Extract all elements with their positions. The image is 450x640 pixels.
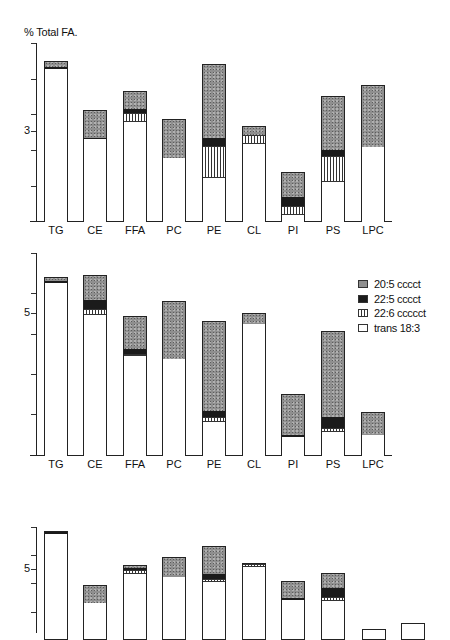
bar-tg xyxy=(44,277,68,455)
legend-item-20-5: 20:5 cccct xyxy=(358,277,426,292)
segment-trans xyxy=(363,630,385,634)
bar-ffa xyxy=(123,565,147,640)
legend-label: 20:5 cccct xyxy=(374,278,421,290)
segment-trans xyxy=(282,215,304,222)
bar-ps xyxy=(321,331,345,455)
segment-s205 xyxy=(84,586,106,603)
segment-trans xyxy=(45,534,67,634)
striped-swatch-icon xyxy=(358,309,368,317)
x-tick-label: CL xyxy=(234,458,274,470)
y-axis-title: % Total FA. xyxy=(24,26,77,38)
bar-ffa xyxy=(123,316,147,455)
bar-pc xyxy=(162,557,186,640)
y-axis-line xyxy=(36,527,37,633)
bar-pi xyxy=(281,394,305,455)
y-tick xyxy=(31,334,36,335)
x-tick-label: TG xyxy=(36,224,76,236)
segment-trans xyxy=(243,324,265,456)
bar-unlabeled xyxy=(401,623,425,640)
bar-ce xyxy=(83,110,107,221)
x-tick-label: TG xyxy=(36,458,76,470)
y-tick xyxy=(31,253,36,254)
segment-s205 xyxy=(203,65,225,138)
bar-lpc xyxy=(362,629,386,640)
y-tick xyxy=(31,555,36,556)
y-tick xyxy=(31,43,36,44)
x-tick-label: FFA xyxy=(115,224,155,236)
segment-s205 xyxy=(203,322,225,411)
segment-s225 xyxy=(282,197,304,206)
segment-trans xyxy=(124,122,146,222)
solid-swatch-icon xyxy=(358,295,368,303)
segment-s205 xyxy=(163,120,185,158)
segment-s205 xyxy=(84,111,106,138)
y-tick xyxy=(31,374,36,375)
bar-ce xyxy=(83,585,107,640)
segment-trans xyxy=(124,356,146,456)
segment-trans xyxy=(163,359,185,456)
segment-s205 xyxy=(322,574,344,588)
segment-s205 xyxy=(243,127,265,135)
y-axis-line xyxy=(36,253,37,455)
x-tick-label: PI xyxy=(273,224,313,236)
legend-label: 22:6 ccccct xyxy=(374,307,426,319)
segment-trans xyxy=(45,69,67,222)
x-tick-label: PE xyxy=(194,458,234,470)
segment-trans xyxy=(84,603,106,634)
y-tick xyxy=(31,186,36,187)
segment-trans xyxy=(163,577,185,634)
y-tick xyxy=(31,612,36,613)
bar-tg xyxy=(44,531,68,640)
y-tick-label: 5 xyxy=(24,562,30,574)
segment-s226 xyxy=(282,206,304,215)
y-tick xyxy=(31,583,36,584)
x-tick-label: CL xyxy=(234,224,274,236)
bar-ps xyxy=(321,96,345,221)
legend: 20:5 cccct 22:5 cccct 22:6 ccccct trans … xyxy=(358,277,426,335)
segment-s205 xyxy=(282,395,304,435)
segment-s225 xyxy=(322,417,344,428)
y-tick xyxy=(31,414,36,415)
segment-s205 xyxy=(322,332,344,417)
segment-s205 xyxy=(163,302,185,359)
legend-label: 22:5 cccct xyxy=(374,293,421,305)
segment-trans xyxy=(322,182,344,222)
bar-cl xyxy=(242,313,266,455)
segment-trans xyxy=(243,567,265,634)
x-tick-label: CE xyxy=(75,224,115,236)
segment-trans xyxy=(402,624,424,634)
segment-s205 xyxy=(362,86,384,147)
segment-trans xyxy=(243,144,265,222)
segment-s226 xyxy=(243,135,265,144)
segment-trans xyxy=(163,158,185,222)
stipple-swatch-icon xyxy=(358,280,368,288)
y-tick xyxy=(31,569,36,570)
segment-s225 xyxy=(322,588,344,597)
segment-s205 xyxy=(282,173,304,197)
bar-pc xyxy=(162,301,186,455)
segment-trans xyxy=(84,315,106,456)
bar-ffa xyxy=(123,91,147,221)
segment-trans xyxy=(124,574,146,634)
segment-trans xyxy=(362,435,384,456)
segment-trans xyxy=(203,422,225,456)
legend-item-22-5: 22:5 cccct xyxy=(358,292,426,307)
legend-item-22-6: 22:6 ccccct xyxy=(358,306,426,321)
segment-s226 xyxy=(203,146,225,178)
bar-pi xyxy=(281,172,305,221)
segment-trans xyxy=(322,601,344,634)
legend-item-trans-18-3: trans 18:3 xyxy=(358,321,426,336)
segment-trans xyxy=(282,437,304,456)
y-tick xyxy=(31,131,36,132)
bar-lpc xyxy=(361,412,385,455)
bar-pe xyxy=(202,321,226,455)
bar-ce xyxy=(83,275,107,455)
bar-cl xyxy=(242,126,266,221)
segment-s226 xyxy=(124,113,146,122)
segment-s225 xyxy=(203,138,225,146)
bar-lpc xyxy=(361,85,385,221)
y-tick xyxy=(31,527,36,528)
segment-trans xyxy=(203,582,225,634)
x-tick-label: PC xyxy=(154,458,194,470)
segment-trans xyxy=(84,139,106,222)
